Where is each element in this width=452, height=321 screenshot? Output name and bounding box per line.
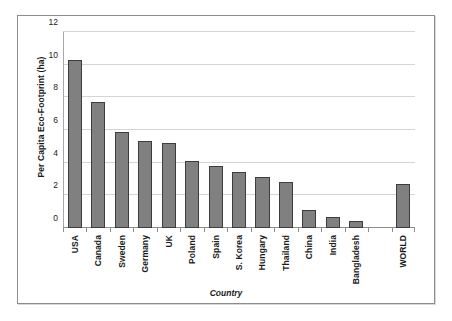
x-label-slot: WORLD <box>392 233 415 293</box>
x-label-slot: UK <box>157 233 180 293</box>
x-label-slot: Germany <box>133 233 156 293</box>
tick-mark <box>227 228 228 232</box>
y-tick-label: 10 <box>49 50 58 60</box>
x-label-slot: Poland <box>180 233 203 293</box>
x-label-slot: Bangladesh <box>345 233 368 293</box>
bar-slot <box>392 32 415 228</box>
x-label-slot: China <box>298 233 321 293</box>
x-label-slot: Canada <box>86 233 109 293</box>
tick-slot <box>133 228 156 232</box>
x-label-slot: Spain <box>204 233 227 293</box>
x-tick-label: Germany <box>140 235 150 273</box>
bar[interactable] <box>68 60 82 228</box>
x-tick-label: Sweden <box>117 235 127 268</box>
tick-slot <box>368 228 391 232</box>
bar[interactable] <box>396 184 410 228</box>
y-tick-label: 2 <box>53 180 58 190</box>
tick-slot <box>180 228 203 232</box>
tick-slot <box>227 228 250 232</box>
tick-mark <box>274 228 275 232</box>
x-tick-label: WORLD <box>398 235 408 268</box>
tick-slot <box>251 228 274 232</box>
tick-mark <box>157 228 158 232</box>
bar[interactable] <box>255 177 269 228</box>
y-tick-label: 6 <box>53 115 58 125</box>
tick-slot <box>298 228 321 232</box>
tick-slot <box>321 228 344 232</box>
bar-slot <box>298 32 321 228</box>
y-tick-label: 8 <box>53 82 58 92</box>
bar-slot <box>204 32 227 228</box>
x-axis-category-labels: USACanadaSwedenGermanyUKPolandSpainS. Ko… <box>63 233 415 293</box>
x-tick-label: Thailand <box>281 235 291 271</box>
bar[interactable] <box>185 161 199 228</box>
tick-mark <box>414 228 415 232</box>
x-axis-ticks <box>63 228 415 232</box>
bar-slot <box>63 32 86 228</box>
tick-mark <box>204 228 205 232</box>
bar-slot <box>368 32 391 228</box>
tick-slot <box>86 228 109 232</box>
tick-slot <box>204 228 227 232</box>
bar-slot <box>86 32 109 228</box>
plot-area: 024681012 <box>63 32 415 228</box>
tick-slot <box>157 228 180 232</box>
tick-mark <box>368 228 369 232</box>
tick-mark <box>298 228 299 232</box>
bar[interactable] <box>115 132 129 228</box>
tick-mark <box>251 228 252 232</box>
bars-layer <box>63 32 415 228</box>
x-tick-label: UK <box>164 235 174 247</box>
tick-mark <box>63 228 64 232</box>
x-tick-label: Spain <box>211 235 221 259</box>
x-label-slot <box>368 233 391 293</box>
x-label-slot: India <box>321 233 344 293</box>
x-tick-label: S. Korea <box>234 235 244 270</box>
bar[interactable] <box>326 217 340 228</box>
bar-slot <box>157 32 180 228</box>
tick-slot <box>110 228 133 232</box>
bar-slot <box>274 32 297 228</box>
x-tick-label: China <box>304 235 314 259</box>
y-axis-title: Per Capita Eco-Footprint (ha) <box>36 32 46 202</box>
bar-slot <box>133 32 156 228</box>
bar-slot <box>251 32 274 228</box>
x-tick-label: Poland <box>187 235 197 264</box>
x-label-slot: Thailand <box>274 233 297 293</box>
tick-slot <box>392 228 415 232</box>
x-axis-title: Country <box>18 288 434 298</box>
bar[interactable] <box>138 141 152 228</box>
bar[interactable] <box>91 102 105 228</box>
tick-slot <box>345 228 368 232</box>
tick-mark <box>86 228 87 232</box>
x-label-slot: S. Korea <box>227 233 250 293</box>
x-label-slot: Sweden <box>110 233 133 293</box>
tick-mark <box>392 228 393 232</box>
bar[interactable] <box>209 166 223 228</box>
bar[interactable] <box>232 172 246 228</box>
tick-mark <box>180 228 181 232</box>
bar-slot <box>321 32 344 228</box>
x-tick-label: India <box>328 235 338 255</box>
tick-mark <box>321 228 322 232</box>
tick-slot <box>63 228 86 232</box>
bar-slot <box>227 32 250 228</box>
x-tick-label: Canada <box>93 235 103 266</box>
x-tick-label: USA <box>70 235 80 253</box>
bar[interactable] <box>279 182 293 228</box>
bar[interactable] <box>162 143 176 228</box>
tick-mark <box>110 228 111 232</box>
bar-slot <box>110 32 133 228</box>
tick-mark <box>133 228 134 232</box>
x-tick-label: Bangladesh <box>351 235 361 284</box>
y-tick-label: 12 <box>49 17 58 27</box>
x-label-slot: Hungary <box>251 233 274 293</box>
bar[interactable] <box>302 210 316 228</box>
tick-slot <box>274 228 297 232</box>
bar-slot <box>180 32 203 228</box>
x-tick-label: Hungary <box>257 235 267 270</box>
y-tick-label: 4 <box>53 148 58 158</box>
x-label-slot: USA <box>63 233 86 293</box>
bar-slot <box>345 32 368 228</box>
y-tick-label: 0 <box>53 213 58 223</box>
